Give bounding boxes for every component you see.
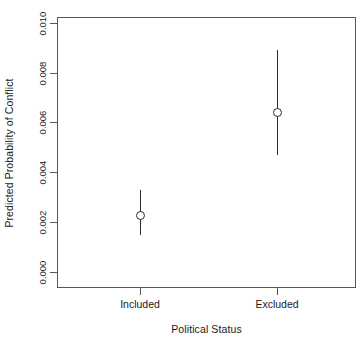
y-tick-label-3: 0.006 [36, 106, 49, 140]
y-tick-label-2: 0.004 [36, 156, 49, 190]
data-point-excluded [273, 108, 282, 117]
y-tick-label-5: 0.010 [36, 7, 49, 41]
data-point-included [136, 211, 145, 220]
x-tick-mark-excluded [277, 288, 278, 295]
x-tick-mark-included [140, 288, 141, 295]
y-tick-mark-0 [50, 272, 57, 273]
y-axis-title: Predicted Probability of Conflict [1, 18, 17, 289]
y-tick-mark-3 [50, 122, 57, 123]
x-axis-title: Political Status [57, 323, 356, 335]
x-tick-label-excluded: Excluded [222, 298, 332, 310]
y-tick-mark-4 [50, 73, 57, 74]
y-tick-label-1: 0.002 [36, 206, 49, 240]
y-tick-mark-1 [50, 222, 57, 223]
plot-area-border [57, 17, 356, 288]
y-tick-mark-5 [50, 23, 57, 24]
y-tick-label-0: 0.000 [36, 256, 49, 290]
chart-figure: 0.000 0.002 0.004 0.006 0.008 0.010 Pred… [0, 0, 364, 343]
y-tick-mark-2 [50, 172, 57, 173]
y-tick-label-4: 0.008 [36, 57, 49, 91]
error-bar-excluded [277, 50, 278, 155]
x-tick-label-included: Included [85, 298, 195, 310]
